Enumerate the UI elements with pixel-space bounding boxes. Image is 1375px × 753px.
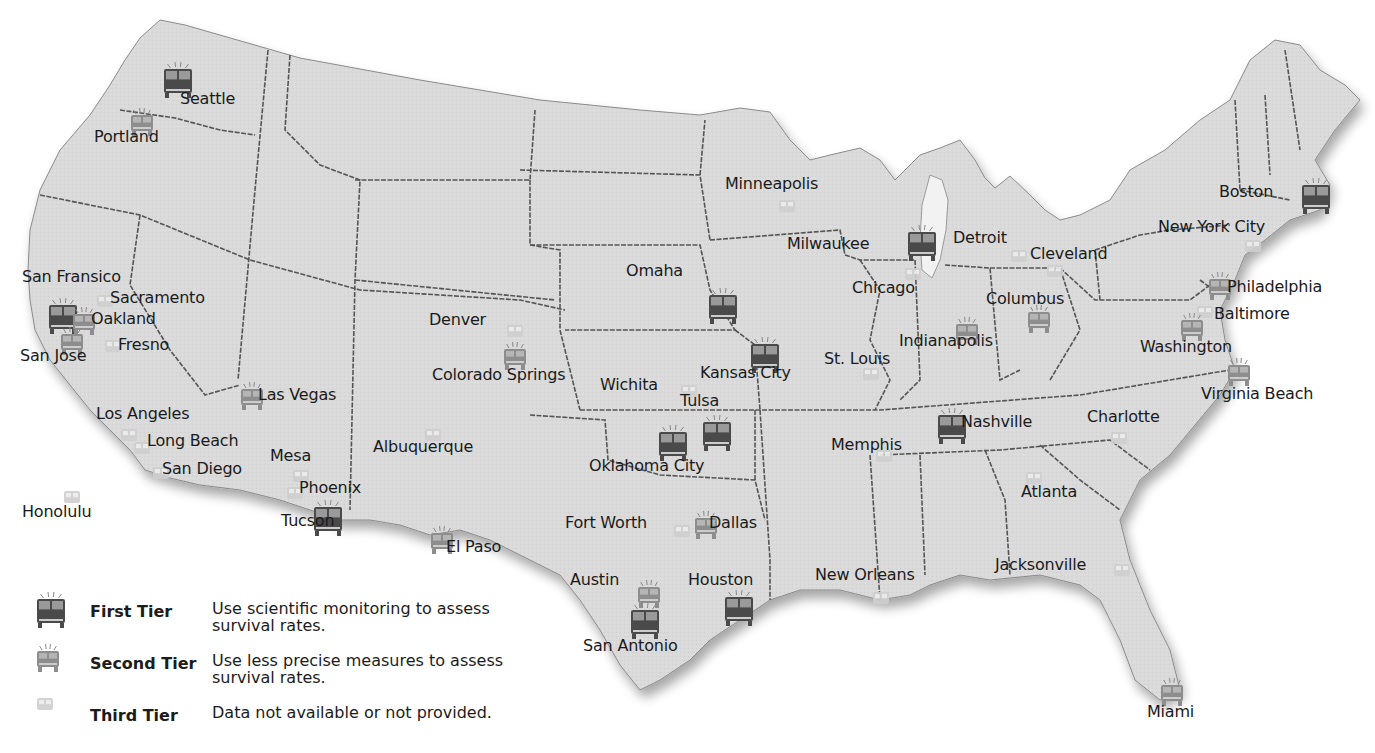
city-label: St. Louis [824,350,890,368]
city-label: Tulsa [680,392,719,410]
legend-tier-label: Third Tier [90,706,178,725]
city-label: San Jose [20,347,86,365]
city-label: Tucson [281,512,334,530]
fire-truck-tier3-icon [862,366,880,385]
legend-tier-label: First Tier [90,602,172,621]
city-label: Denver [429,311,486,329]
city-label: Austin [570,571,619,589]
city-label: Oakland [91,310,156,328]
city-label: Seattle [180,90,235,108]
city-label: Atlanta [1021,483,1077,501]
fire-truck-tier3-icon [1113,562,1131,581]
fire-truck-tier2-icon [36,644,60,676]
legend-row-first-tier: First Tier Use scientific monitoring to … [36,592,556,644]
city-label: Colorado Springs [432,366,565,384]
fire-truck-tier3-icon [872,590,890,609]
city-label: Phoenix [299,479,361,497]
city-label: New York City [1158,218,1265,236]
fire-truck-tier1-icon [907,225,937,265]
city-label: Los Angeles [96,405,189,423]
fire-truck-tier3-icon [36,696,54,715]
fire-truck-tier1-icon [702,415,732,455]
legend-tier-description: Use scientific monitoring to assess surv… [212,600,512,634]
city-label: Baltimore [1214,305,1290,323]
city-label: Cleveland [1030,245,1108,263]
city-label: Minneapolis [725,175,818,193]
fire-truck-tier1-icon [36,592,66,632]
legend-row-second-tier: Second Tier Use less precise measures to… [36,644,556,696]
city-label: Fresno [118,336,169,354]
legend-tier-description: Use less precise measures to assess surv… [212,652,512,686]
fire-truck-tier3-icon [506,323,524,342]
city-label: Portland [94,128,159,146]
city-label: Columbus [986,290,1064,308]
city-label: Chicago [852,279,915,297]
city-label: Fort Worth [565,514,647,532]
city-label: Boston [1219,183,1273,201]
city-label: Las Vegas [258,386,336,404]
city-label: El Paso [446,538,501,556]
city-label: Memphis [831,436,902,454]
city-label: San Fransico [22,268,121,286]
legend-tier-label: Second Tier [90,654,196,673]
city-label: Albuquerque [373,438,473,456]
city-label: Indianapolis [899,332,993,350]
city-label: Miami [1147,703,1194,721]
city-label: Philadelphia [1227,278,1322,296]
city-label: Kansas City [700,364,791,382]
fire-truck-tier1-icon [724,590,754,630]
fire-truck-tier1-icon [1301,178,1331,218]
city-label: Omaha [626,262,683,280]
city-label: Mesa [270,447,311,465]
city-label: San Antonio [583,637,678,655]
fire-truck-tier3-icon [673,523,691,542]
city-label: Dallas [709,514,757,532]
city-label: Washington [1140,338,1232,356]
city-label: Nashville [961,413,1032,431]
city-label: Detroit [953,229,1007,247]
fire-truck-tier3-icon [1244,238,1262,257]
fire-truck-tier1-icon [708,288,738,328]
city-label: New Orleans [815,566,915,584]
fire-truck-tier3-icon [1046,263,1064,282]
city-label: Sacramento [110,289,205,307]
fire-truck-tier3-icon [1010,248,1028,267]
city-label: Honolulu [22,503,91,521]
fire-truck-tier3-icon [1110,430,1128,449]
city-label: Oklahoma City [589,457,704,475]
city-label: San Diego [162,460,242,478]
city-label: Charlotte [1087,408,1160,426]
legend-row-third-tier: Third Tier Data not available or not pro… [36,696,556,748]
city-label: Virginia Beach [1201,385,1313,403]
city-label: Milwaukee [787,235,869,253]
city-label: Jacksonville [995,556,1086,574]
legend: First Tier Use scientific monitoring to … [36,592,556,748]
city-label: Houston [688,571,753,589]
city-label: Long Beach [147,432,238,450]
fire-truck-tier3-icon [778,198,796,217]
city-label: Wichita [600,376,658,394]
legend-tier-description: Data not available or not provided. [212,704,512,721]
fire-truck-tier2-icon [1027,305,1051,337]
